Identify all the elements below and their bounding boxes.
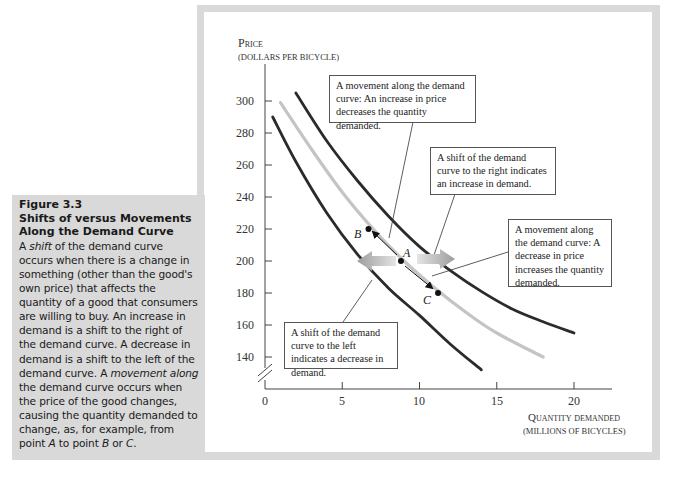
annotation-movement-down: A movement along the demand curve: A dec… [508,219,612,287]
movement-up-arrow-icon [373,232,397,255]
y-tick-label: 160 [224,318,254,333]
x-axis-subtitle: (millions of bicycles) [523,426,625,436]
point-label-b: B [354,227,361,242]
y-axis-subtitle: (dollars per bicycle) [238,52,339,62]
shift-right-arrow-icon [417,249,455,269]
shift-left-arrow-icon [357,251,396,271]
y-tick-label: 180 [224,286,254,301]
x-axis-title: Quantity demanded [528,411,620,423]
x-tick-label: 10 [404,394,434,409]
x-tick-label: 5 [327,394,357,409]
x-tick-label: 0 [250,394,280,409]
x-ticks [342,382,574,389]
y-tick-label: 300 [224,94,254,109]
point-label-a: A [403,246,410,261]
point-c [435,290,441,296]
demand-curve-original [280,103,543,357]
x-tick-label: 20 [559,394,589,409]
y-axis-title: Price [238,36,263,51]
y-tick-label: 220 [224,222,254,237]
y-tick-label: 260 [224,158,254,173]
annotation-movement-up: A movement along the demand curve: An in… [329,75,476,123]
y-tick-label: 140 [224,350,254,365]
movement-down-arrow-icon [405,266,432,288]
y-tick-label: 240 [224,190,254,205]
y-tick-label: 280 [224,126,254,141]
point-label-c: C [423,293,431,308]
y-axis-title-text: Price [238,36,263,50]
x-axis-title-text: Quantity demanded [528,411,620,423]
annotation-shift-left: A shift of the demand curve to the left … [284,322,398,369]
point-b [366,226,372,232]
x-tick-label: 15 [482,394,512,409]
annotation-shift-right: A shift of the demand curve to the right… [430,147,556,195]
y-ticks [265,101,272,357]
y-tick-label: 200 [224,254,254,269]
